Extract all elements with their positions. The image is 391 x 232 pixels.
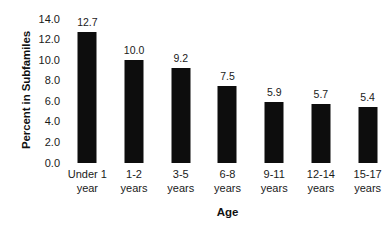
y-axis-tick-label: 0.0 [26,158,60,169]
bar-value-label: 10.0 [124,45,144,56]
x-axis-tick-label-line2: years [307,182,335,196]
x-axis-tick-label-line1: 3-5 [167,168,194,182]
bar-group: 9.23-5years [157,0,204,232]
x-axis-tick-label-line2: years [121,182,148,196]
bar-value-label: 5.4 [360,92,375,103]
x-axis-tick-label-line1: 12-14 [307,168,335,182]
bar-value-label: 7.5 [220,71,235,82]
x-axis-tick-label-line1: 15-17 [354,168,382,182]
bar [78,32,97,163]
x-axis-tick-label-line2: years [261,182,288,196]
x-axis-tick-label-line1: Under 1 [68,168,107,182]
x-axis-tick-label-line2: years [354,182,382,196]
y-axis-tick-label: 14.0 [26,14,60,25]
x-axis-tick-label-line1: 9-11 [261,168,288,182]
bar [171,68,190,163]
y-axis-tick-label: 8.0 [26,75,60,86]
bar-group: 5.415-17years [344,0,391,232]
y-axis-tick-label: 4.0 [26,116,60,127]
bar-value-label: 5.7 [314,89,329,100]
x-axis-tick-label-line1: 6-8 [214,168,241,182]
x-axis-title: Age [64,206,391,218]
y-axis-tick-label: 6.0 [26,96,60,107]
x-axis-tick-label: Under 1year [68,168,107,195]
bar-group: 7.56-8years [204,0,251,232]
y-axis-tick-label: 12.0 [26,34,60,45]
bar-group: 10.01-2years [111,0,158,232]
bar-value-label: 12.7 [77,17,97,28]
x-axis-tick-label: 1-2years [121,168,148,195]
y-axis-tick-label: 2.0 [26,137,60,148]
bar-group: 12.7Under 1year [64,0,111,232]
x-axis-tick-label-line1: 1-2 [121,168,148,182]
bar [358,107,377,163]
bar-group: 5.712-14years [298,0,345,232]
bar-value-label: 5.9 [267,87,282,98]
y-axis-tick-labels: 14.012.010.08.06.04.02.00.0 [26,0,60,232]
x-axis-tick-label-line2: years [167,182,194,196]
bar-value-label: 9.2 [173,53,188,64]
bar [218,86,237,163]
x-axis-tick-label-line2: year [68,182,107,196]
bar [265,102,284,163]
bar [311,104,330,163]
x-axis-tick-label: 9-11years [261,168,288,195]
x-axis-tick-label: 3-5years [167,168,194,195]
x-axis-tick-label: 15-17years [354,168,382,195]
bar-group: 5.99-11years [251,0,298,232]
bar [125,60,144,163]
x-axis-tick-label: 12-14years [307,168,335,195]
x-axis-tick-label-line2: years [214,182,241,196]
y-axis-tick-label: 10.0 [26,55,60,66]
bar-chart: Percent in Subfamiles 14.012.010.08.06.0… [0,0,391,232]
plot-area: 12.7Under 1year10.01-2years9.23-5years7.… [64,0,391,232]
x-axis-tick-label: 6-8years [214,168,241,195]
